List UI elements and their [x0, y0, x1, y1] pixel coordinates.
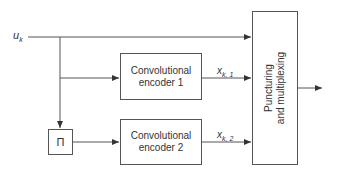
interleaver-block: Π: [48, 129, 73, 155]
encoder1-label-line1: Convolutional: [131, 65, 192, 77]
output2-subscript: k, 2: [222, 135, 233, 142]
input-label-uk: uk: [13, 30, 23, 43]
output1-label-xk1: xk, 1: [217, 66, 233, 78]
output2-label-xk2: xk, 2: [217, 130, 233, 142]
encoder2-label-line2: encoder 2: [131, 142, 192, 154]
mux-label: Puncturing and multiplexing: [263, 52, 287, 124]
mux-label-line1: Puncturing: [263, 52, 275, 124]
input-subscript: k: [19, 36, 23, 43]
convolutional-encoder-2-block: Convolutional encoder 2: [120, 119, 202, 165]
convolutional-encoder-1-block: Convolutional encoder 1: [120, 53, 202, 100]
interleaver-label: Π: [57, 136, 65, 148]
puncturing-multiplexing-block: Puncturing and multiplexing: [252, 11, 298, 165]
encoder1-label-line2: encoder 1: [131, 77, 192, 89]
encoder2-label-line1: Convolutional: [131, 130, 192, 142]
mux-label-line2: and multiplexing: [275, 52, 287, 124]
output1-subscript: k, 1: [222, 71, 233, 78]
